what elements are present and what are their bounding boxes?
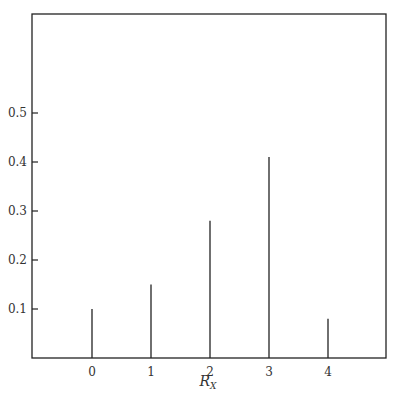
y-tick-label: 0.5	[8, 106, 27, 120]
x-tick-label: 3	[265, 365, 273, 379]
y-tick-label: 0.1	[8, 302, 27, 316]
y-tick-label: 0.2	[8, 253, 27, 267]
plot-frame	[32, 14, 386, 358]
x-tick-label: 1	[147, 365, 155, 379]
x-axis-label: RX	[199, 373, 218, 391]
x-tick-label: 0	[88, 365, 96, 379]
x-axis-ticks: 01234	[88, 365, 332, 379]
y-tick-label: 0.4	[8, 155, 27, 169]
y-tick-label: 0.3	[8, 204, 27, 218]
chart: 0.10.20.30.40.5 01234 RX	[0, 0, 399, 406]
y-axis-ticks: 0.10.20.30.40.5	[8, 106, 38, 316]
stem-series	[92, 157, 328, 358]
x-tick-label: 4	[324, 365, 332, 379]
